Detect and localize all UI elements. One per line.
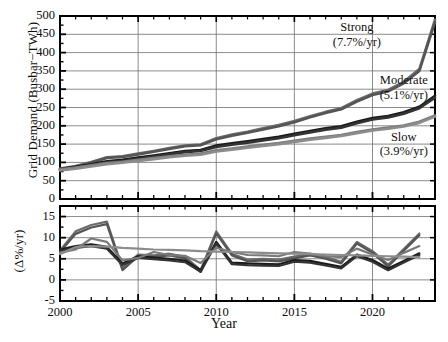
annotation-moderate: Moderate (5.1%/yr) bbox=[358, 73, 448, 102]
y-tick-label: 0 bbox=[20, 191, 55, 206]
annotation-slow-rate: (3.9%/yr) bbox=[358, 144, 448, 158]
y-tick-label: 200 bbox=[20, 118, 55, 133]
y-tick-label: 400 bbox=[20, 45, 55, 60]
y-tick-label: 500 bbox=[20, 8, 55, 23]
x-tick-label: 2015 bbox=[264, 305, 324, 320]
chart-canvas bbox=[0, 0, 448, 342]
annotation-moderate-name: Moderate bbox=[358, 73, 448, 87]
x-tick-label: 2010 bbox=[186, 305, 246, 320]
y-tick-label: 10 bbox=[20, 230, 55, 245]
x-tick-label: 2005 bbox=[108, 305, 168, 320]
y-tick-label: 150 bbox=[20, 136, 55, 151]
annotation-strong-rate: (7.7%/yr) bbox=[311, 35, 403, 49]
y-tick-label: 250 bbox=[20, 100, 55, 115]
annotation-slow-name: Slow bbox=[358, 130, 448, 144]
y-tick-label: 100 bbox=[20, 154, 55, 169]
annotation-moderate-rate: (5.1%/yr) bbox=[358, 88, 448, 102]
x-tick-label: 2020 bbox=[343, 305, 403, 320]
x-tick-label: 2000 bbox=[30, 305, 90, 320]
y-tick-label: 15 bbox=[20, 209, 55, 224]
figure: Grid Demand (Busbar−TWh) (Δ%/yr) Year St… bbox=[0, 0, 448, 342]
y-tick-label: 0 bbox=[20, 272, 55, 287]
annotation-slow: Slow (3.9%/yr) bbox=[358, 130, 448, 159]
y-tick-label: 350 bbox=[20, 63, 55, 78]
y-tick-label: 450 bbox=[20, 26, 55, 41]
y-tick-label: 50 bbox=[20, 173, 55, 188]
y-tick-label: 300 bbox=[20, 81, 55, 96]
annotation-strong: Strong (7.7%/yr) bbox=[311, 20, 403, 49]
y-tick-label: 5 bbox=[20, 251, 55, 266]
annotation-strong-name: Strong bbox=[311, 20, 403, 34]
